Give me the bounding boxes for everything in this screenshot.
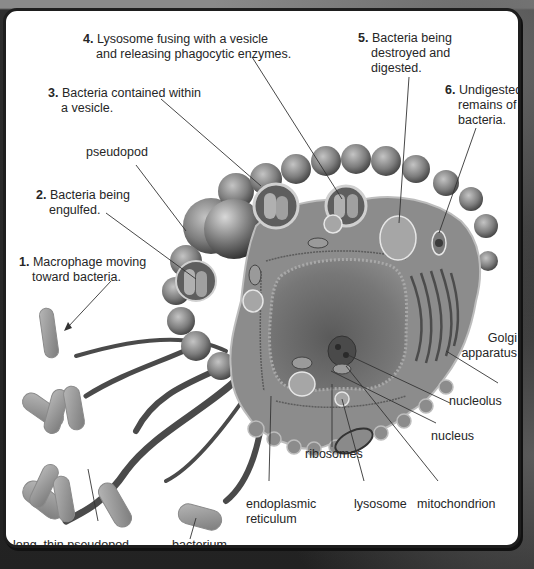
label-lysosome: lysosome	[354, 497, 407, 512]
label-step-4: 4. Lysosome fusing with a vesicle and re…	[83, 32, 291, 62]
label-mitochondrion: mitochondrion	[417, 497, 496, 512]
label-nucleolus: nucleolus	[449, 394, 502, 409]
label-step-6: 6. Undigested remains of bacteria.	[445, 83, 521, 128]
label-endoplasmic-reticulum: endoplasmic reticulum	[246, 497, 316, 527]
nucleolus-shape	[328, 336, 356, 366]
label-ribosomes: ribosomes	[305, 447, 363, 462]
label-bacterium: bacterium	[172, 538, 227, 548]
label-step-1: 1. Macrophage moving toward bacteria.	[19, 255, 146, 285]
label-long-thin-pseudopod: long, thin pseudopod	[13, 538, 129, 548]
label-step-2: 2. Bacteria being engulfed.	[36, 188, 130, 218]
label-step-5: 5. Bacteria being destroyed and digested…	[358, 31, 452, 76]
label-pseudopod: pseudopod	[86, 145, 148, 160]
label-nucleus: nucleus	[431, 429, 474, 444]
label-step-3: 3. Bacteria contained within a vesicle.	[48, 86, 201, 116]
diagram-panel: 4. Lysosome fusing with a vesicle and re…	[3, 8, 521, 548]
label-golgi-apparatus: Golgi apparatus	[461, 331, 517, 361]
